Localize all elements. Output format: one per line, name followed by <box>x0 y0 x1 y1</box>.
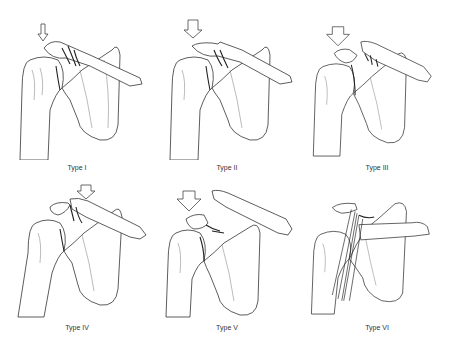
caption-type-6: Type VI <box>300 324 454 331</box>
caption-type-5: Type V <box>150 324 304 331</box>
panel-type-6: Type VI <box>300 177 454 354</box>
caption-type-4: Type IV <box>0 324 154 331</box>
force-arrow-icon <box>184 20 202 38</box>
shoulder-illustration-type-6 <box>300 177 454 337</box>
caption-type-2: Type II <box>150 164 304 171</box>
panel-type-2: Type II <box>150 0 304 177</box>
shoulder-illustration-type-2 <box>150 0 304 160</box>
panel-type-4: Type IV <box>0 177 154 354</box>
shoulder-illustration-type-1 <box>0 0 154 160</box>
shoulder-illustration-type-5 <box>150 177 304 337</box>
caption-type-3: Type III <box>300 164 454 171</box>
force-arrow-icon <box>327 27 350 46</box>
force-arrow-icon <box>177 191 201 211</box>
force-arrow-icon <box>77 185 95 199</box>
shoulder-illustration-type-4 <box>0 177 154 337</box>
panel-type-1: Type I <box>0 0 154 177</box>
force-arrow-icon <box>38 24 48 41</box>
panel-type-5: Type V <box>150 177 304 354</box>
shoulder-illustration-type-3 <box>300 0 454 160</box>
caption-type-1: Type I <box>0 164 154 171</box>
panel-type-3: Type III <box>300 0 454 177</box>
